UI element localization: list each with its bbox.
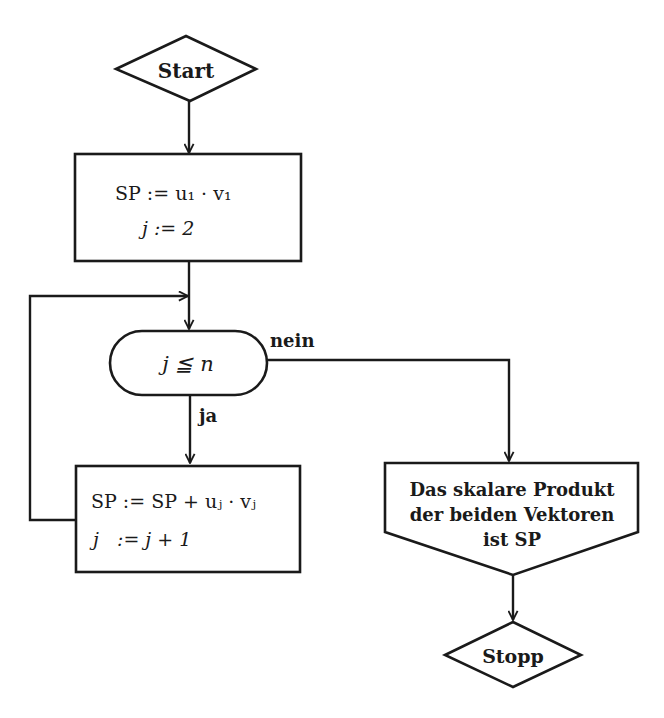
edge-condition-to-output xyxy=(267,360,509,461)
output-line-2: der beiden Vektoren xyxy=(410,504,615,525)
stop-node: Stopp xyxy=(445,622,581,687)
flowchart: Start SP := u₁ · v₁ j := 2 j ≦ n nein ja… xyxy=(0,0,664,718)
output-node: Das skalare Produkt der beiden Vektoren … xyxy=(385,463,638,575)
condition-label: j ≦ n xyxy=(158,352,213,376)
loop-body-line-1: SP := SP + uⱼ · vⱼ xyxy=(91,490,256,512)
loop-body-box xyxy=(76,466,300,572)
loop-body-line-2: j := j + 1 xyxy=(89,528,191,550)
init-line-2: j := 2 xyxy=(138,217,194,239)
init-box xyxy=(75,154,301,261)
init-line-1: SP := u₁ · v₁ xyxy=(115,182,232,204)
output-line-3: ist SP xyxy=(483,529,542,550)
no-branch-label: nein xyxy=(270,330,314,351)
condition-node: j ≦ n xyxy=(110,331,267,395)
start-label: Start xyxy=(158,59,215,83)
yes-branch-label: ja xyxy=(197,405,218,426)
loop-body-node: SP := SP + uⱼ · vⱼ j := j + 1 xyxy=(76,466,300,572)
output-line-1: Das skalare Produkt xyxy=(409,479,615,500)
start-node: Start xyxy=(116,36,256,101)
stop-label: Stopp xyxy=(482,645,544,667)
init-node: SP := u₁ · v₁ j := 2 xyxy=(75,154,301,261)
